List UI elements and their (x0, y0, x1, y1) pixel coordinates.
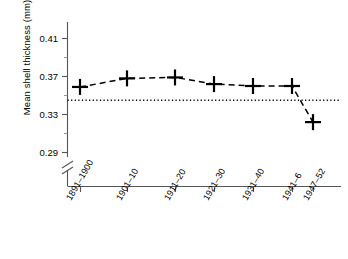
y-tick-label-0-37: 0.37 (24, 71, 58, 82)
y-tick-label-0-29: 0.29 (24, 147, 58, 158)
data-point-marker (206, 76, 222, 92)
chart-figure: Mean shell thickness (mm) 0.41 0.37 0.33… (0, 0, 348, 259)
data-point-marker (72, 79, 88, 95)
data-point-marker (305, 114, 321, 130)
data-point-marker (284, 78, 300, 94)
data-point-marker (119, 70, 135, 86)
x-axis-ticks (81, 187, 314, 193)
data-point-marker (245, 78, 261, 94)
y-tick-label-0-33: 0.33 (24, 109, 58, 120)
y-tick-label-0-41: 0.41 (24, 33, 58, 44)
data-point-marker (167, 69, 183, 85)
